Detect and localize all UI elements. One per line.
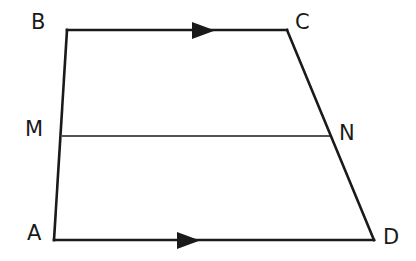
arrowhead-icon-bc: [192, 22, 215, 39]
vertex-label-m: M: [25, 119, 43, 140]
segment-ab: [54, 30, 67, 240]
vertex-label-a: A: [27, 223, 41, 244]
arrowhead-icon-ad: [177, 232, 200, 249]
geometry-figure: B C M N A D: [0, 0, 416, 261]
vertex-label-c: C: [295, 12, 310, 33]
segment-cd: [287, 30, 374, 240]
vertex-label-d: D: [383, 227, 399, 248]
vertex-label-n: N: [339, 123, 355, 144]
vertex-label-b: B: [31, 12, 45, 33]
